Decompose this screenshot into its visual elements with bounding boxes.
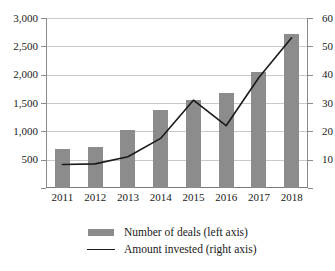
right-axis-label-30: 30 xyxy=(322,98,333,109)
left-axis-label-2500: 2,500 xyxy=(0,41,38,52)
right-axis-tick-labels: 102030405060 xyxy=(314,18,335,188)
left-axis-label-500: 500 xyxy=(0,154,38,165)
x-axis-label-2017: 2017 xyxy=(243,191,276,203)
legend-label-number-of-deals: Number of deals (left axis) xyxy=(118,226,248,239)
right-axis-tick xyxy=(308,131,313,132)
bar-swatch-icon xyxy=(84,229,118,236)
right-axis-tick xyxy=(308,46,313,47)
x-axis-label-2018: 2018 xyxy=(275,191,308,203)
left-axis-label-1000: 1,000 xyxy=(0,126,38,137)
line-series-amount-invested xyxy=(46,18,308,188)
amount-invested-polyline xyxy=(62,38,291,165)
right-axis-label-10: 10 xyxy=(322,154,333,165)
line-swatch-icon xyxy=(84,249,118,250)
right-axis-tick xyxy=(308,75,313,76)
left-axis-label-1500: 1,500 xyxy=(0,98,38,109)
left-axis-label-2000: 2,000 xyxy=(0,69,38,80)
right-axis-label-40: 40 xyxy=(322,69,333,80)
legend-item-number-of-deals: Number of deals (left axis) xyxy=(0,224,335,241)
legend-label-amount-invested: Amount invested (right axis) xyxy=(118,243,257,256)
right-axis-label-50: 50 xyxy=(322,41,333,52)
left-axis-tick-labels: 5001,0001,5002,0002,5003,000 xyxy=(0,18,38,188)
left-axis-tick xyxy=(41,188,46,189)
x-axis-label-2012: 2012 xyxy=(79,191,112,203)
left-axis-label-3000: 3,000 xyxy=(0,13,38,24)
x-axis-label-2013: 2013 xyxy=(112,191,145,203)
x-axis-label-2015: 2015 xyxy=(177,191,210,203)
right-axis-tick xyxy=(308,160,313,161)
plot-area xyxy=(46,18,308,188)
right-axis-tick xyxy=(308,188,313,189)
x-axis-label-2014: 2014 xyxy=(144,191,177,203)
right-axis-tick xyxy=(308,18,313,19)
right-axis-label-60: 60 xyxy=(322,13,333,24)
right-axis-tick xyxy=(308,103,313,104)
x-axis-label-2011: 2011 xyxy=(46,191,79,203)
x-axis-label-2016: 2016 xyxy=(210,191,243,203)
right-axis-label-20: 20 xyxy=(322,126,333,137)
chart-legend: Number of deals (left axis) Amount inves… xyxy=(0,224,335,258)
x-axis-tick-labels: 20112012201320142015201620172018 xyxy=(46,191,308,207)
legend-item-amount-invested: Amount invested (right axis) xyxy=(0,241,335,258)
combo-chart-figure: 5001,0001,5002,0002,5003,000 10203040506… xyxy=(0,0,335,271)
